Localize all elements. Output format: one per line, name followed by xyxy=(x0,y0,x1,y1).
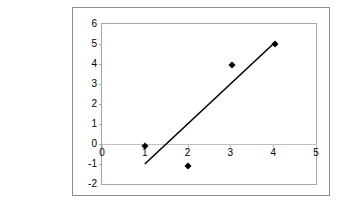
y-tick-label: 0 xyxy=(91,139,97,149)
y-tick-label: 1 xyxy=(91,119,97,129)
y-tick-label: 2 xyxy=(91,99,97,109)
y-tick-label: 3 xyxy=(91,79,97,89)
y-tick-label: 5 xyxy=(91,39,97,49)
y-tick-label: 4 xyxy=(91,59,97,69)
y-tick-label: -2 xyxy=(88,179,97,189)
plot-area: 6 5 4 3 2 1 0 -1 -2 0 1 2 xyxy=(101,23,317,185)
chart-frame: 6 5 4 3 2 1 0 -1 -2 0 1 2 xyxy=(72,7,330,196)
trendline xyxy=(102,24,316,184)
y-tick-label: 6 xyxy=(91,19,97,29)
y-tick-label: -1 xyxy=(88,159,97,169)
